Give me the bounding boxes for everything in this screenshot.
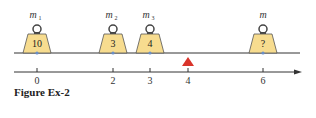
ring-icon [146,25,154,33]
weight-subscript: 1 [39,15,42,21]
weight-m3: 4 m 3 [136,9,164,55]
weight-value: ? [261,38,266,49]
lever-diagram: 10 m 1 3 m 2 4 m 3 ? m [0,0,316,118]
tick-label: 0 [35,75,40,86]
weight-value: 10 [32,38,42,49]
weight-label: m [142,9,149,20]
weight-m: ? m [249,9,277,55]
weight-m1: 10 m 1 [23,9,51,55]
weight-m2: 3 m 2 [99,9,127,55]
ring-icon [259,25,267,33]
weight-label: m [29,9,36,20]
weight-value: 3 [111,38,116,49]
tick-label: 3 [148,75,153,86]
ring-icon [109,25,117,33]
weight-subscript: 3 [152,15,155,21]
figure-caption: Figure Ex-2 [14,86,70,98]
weight-value: 4 [148,38,153,49]
weight-label: m [105,9,112,20]
tick-label: 4 [186,75,191,86]
tick-label: 6 [261,75,266,86]
weight-subscript: 2 [115,15,118,21]
axis-arrow-icon [294,70,302,75]
ring-icon [33,25,41,33]
tick-label: 2 [111,75,116,86]
weight-label: m [259,9,266,20]
fulcrum-triangle-icon [182,57,194,66]
